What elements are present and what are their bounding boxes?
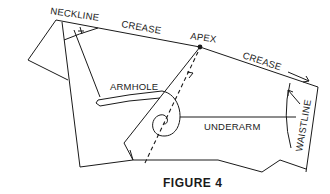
armhole-curve-bottom xyxy=(100,98,160,106)
label-underarm: UNDERARM xyxy=(204,121,261,132)
label-armhole: ARMHOLE xyxy=(110,81,158,92)
crease-line xyxy=(56,20,318,87)
pattern-diagram: NECKLINE CREASE APEX CREASE ARMHOLE UNDE… xyxy=(0,0,330,194)
label-apex: APEX xyxy=(190,30,218,45)
dart-dashed-line xyxy=(144,52,198,165)
center-front-line xyxy=(62,22,133,167)
figure-caption: FIGURE 4 xyxy=(163,176,222,190)
bodice-bottom-edge xyxy=(133,160,306,172)
apex-dot xyxy=(198,45,203,50)
armhole-end xyxy=(96,100,100,106)
label-crease-right: CREASE xyxy=(241,49,283,72)
bodice-left-edge xyxy=(28,20,68,80)
waistline-arrow xyxy=(288,90,300,104)
neckline-diagonal xyxy=(74,30,100,97)
fold-diagonal xyxy=(124,47,200,160)
